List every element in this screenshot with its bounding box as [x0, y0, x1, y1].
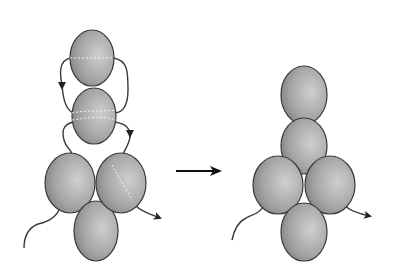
- right-figure: [232, 66, 370, 261]
- thread-down-right: [115, 122, 130, 154]
- bead-bottom: [281, 203, 327, 261]
- bead-top: [281, 66, 327, 124]
- arrow-down-icon: [126, 130, 134, 138]
- arrow-down-icon: [58, 82, 66, 90]
- bead-right: [96, 153, 146, 213]
- beadwork-diagram: [0, 0, 410, 278]
- bead-second: [72, 88, 116, 144]
- thread-down-left: [63, 122, 73, 154]
- thread-exit: [345, 206, 370, 216]
- thread-tail: [24, 208, 60, 248]
- thread-loop-right: [113, 58, 128, 113]
- thread-tail: [232, 207, 263, 240]
- left-figure: [24, 30, 160, 261]
- thread-exit: [136, 206, 160, 218]
